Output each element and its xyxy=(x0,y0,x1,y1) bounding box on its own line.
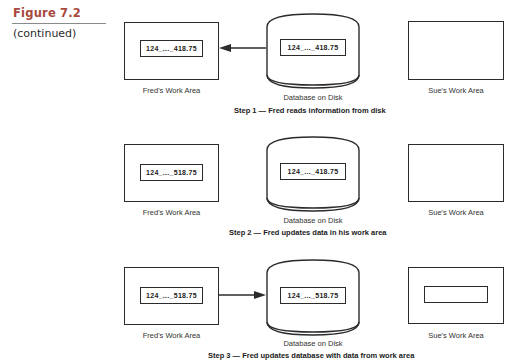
sue-work-area-label: Sue's Work Area xyxy=(408,331,504,340)
database-label: Database on Disk xyxy=(266,339,360,348)
step-3-caption: Step 3 — Fred updates database with data… xyxy=(208,351,414,360)
sue-work-area-box xyxy=(408,267,504,324)
sue-record xyxy=(424,286,488,303)
database-record: 124_..._518.75 xyxy=(280,287,346,304)
